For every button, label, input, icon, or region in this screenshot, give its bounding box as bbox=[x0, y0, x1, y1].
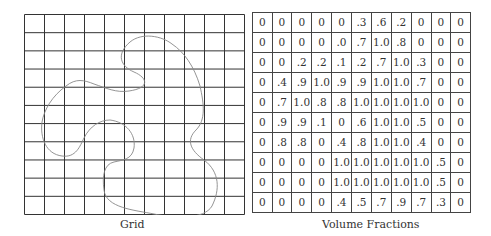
grid-svg bbox=[24, 14, 245, 215]
table-cell: 1.0 bbox=[332, 153, 352, 173]
table-cell: 0 bbox=[272, 13, 292, 33]
table-cell: 0 bbox=[253, 93, 273, 113]
table-cell: 1.0 bbox=[391, 113, 411, 133]
table-cell: .3 bbox=[351, 13, 371, 33]
table-cell: 0 bbox=[451, 93, 471, 113]
table-cell: .2 bbox=[312, 53, 332, 73]
table-cell: 0 bbox=[312, 133, 332, 153]
table-cell: 0 bbox=[253, 13, 273, 33]
table-row: 00.2.2.1.2.71.0.300 bbox=[253, 53, 471, 73]
grid-caption: Grid bbox=[120, 218, 145, 231]
table-cell: .7 bbox=[411, 193, 431, 213]
grid-lines bbox=[25, 15, 245, 215]
table-cell: 0 bbox=[253, 113, 273, 133]
table-cell: .9 bbox=[292, 73, 312, 93]
table-cell: .4 bbox=[411, 133, 431, 153]
table-cell: 1.0 bbox=[371, 93, 391, 113]
table-row: 0.4.91.0.9.91.01.0.700 bbox=[253, 73, 471, 93]
table-cell: 0 bbox=[312, 13, 332, 33]
table-row: 0.71.0.8.81.01.01.01.000 bbox=[253, 93, 471, 113]
table-cell: 0 bbox=[332, 13, 352, 33]
table-cell: 0 bbox=[253, 193, 273, 213]
table-cell: 1.0 bbox=[292, 93, 312, 113]
table-cell: 0 bbox=[451, 193, 471, 213]
table-cell: 1.0 bbox=[371, 113, 391, 133]
table-cell: .2 bbox=[292, 53, 312, 73]
table-cell: 1.0 bbox=[391, 153, 411, 173]
table-cell: 0 bbox=[253, 133, 273, 153]
table-cell: .5 bbox=[431, 153, 451, 173]
table-cell: .3 bbox=[431, 193, 451, 213]
table-row: 0.8.80.4.81.01.0.400 bbox=[253, 133, 471, 153]
table-row: 00000.3.6.2000 bbox=[253, 13, 471, 33]
table-cell: 0 bbox=[451, 73, 471, 93]
table-cell: .7 bbox=[411, 73, 431, 93]
table-cell: 1.0 bbox=[411, 173, 431, 193]
table-cell: 0 bbox=[431, 13, 451, 33]
table-cell: 0 bbox=[431, 133, 451, 153]
table-row: 0.9.9.10.61.01.0.500 bbox=[253, 113, 471, 133]
table-cell: .5 bbox=[351, 193, 371, 213]
table-cell: 0 bbox=[253, 153, 273, 173]
table-cell: 1.0 bbox=[391, 93, 411, 113]
table-cell: 0 bbox=[292, 33, 312, 53]
table-cell: 0 bbox=[431, 113, 451, 133]
table-cell: .9 bbox=[391, 193, 411, 213]
table-cell: .7 bbox=[272, 93, 292, 113]
table-cell: 0 bbox=[451, 53, 471, 73]
table-cell: .7 bbox=[371, 53, 391, 73]
table-cell: 0 bbox=[253, 33, 273, 53]
table-cell: .8 bbox=[351, 133, 371, 153]
volume-fractions-table: 00000.3.6.20000000.0.71.0.800000.2.2.1.2… bbox=[252, 12, 471, 213]
table-cell: 1.0 bbox=[351, 173, 371, 193]
table-cell: .4 bbox=[332, 133, 352, 153]
table-cell: .0 bbox=[332, 33, 352, 53]
table-cell: 1.0 bbox=[371, 153, 391, 173]
table-cell: .3 bbox=[411, 53, 431, 73]
table-cell: 1.0 bbox=[391, 53, 411, 73]
table-cell: .7 bbox=[371, 193, 391, 213]
table-cell: 0 bbox=[451, 13, 471, 33]
table-cell: 0 bbox=[272, 153, 292, 173]
table-cell: .8 bbox=[312, 93, 332, 113]
table-cell: .2 bbox=[391, 13, 411, 33]
interface-curve bbox=[42, 36, 218, 215]
table-cell: 1.0 bbox=[312, 73, 332, 93]
table-cell: 0 bbox=[451, 173, 471, 193]
table-cell: 0 bbox=[253, 173, 273, 193]
table-cell: .6 bbox=[371, 13, 391, 33]
table-cell: .9 bbox=[292, 113, 312, 133]
table-cell: 0 bbox=[451, 113, 471, 133]
table-cell: 0 bbox=[272, 173, 292, 193]
table-cell: .4 bbox=[272, 73, 292, 93]
table-cell: .9 bbox=[272, 113, 292, 133]
table-cell: .2 bbox=[351, 53, 371, 73]
table-cell: 0 bbox=[292, 173, 312, 193]
grid-diagram bbox=[24, 14, 244, 214]
table-cell: .8 bbox=[332, 93, 352, 113]
table-cell: 1.0 bbox=[351, 153, 371, 173]
table-cell: 0 bbox=[411, 13, 431, 33]
table-cell: 0 bbox=[411, 33, 431, 53]
table-cell: 1.0 bbox=[391, 133, 411, 153]
table-cell: 0 bbox=[312, 153, 332, 173]
table-cell: .8 bbox=[292, 133, 312, 153]
table-cell: 0 bbox=[272, 53, 292, 73]
table-cell: .8 bbox=[391, 33, 411, 53]
table-cell: 0 bbox=[431, 93, 451, 113]
table-cell: 1.0 bbox=[371, 73, 391, 93]
table-cell: 0 bbox=[292, 193, 312, 213]
table-cell: 0 bbox=[253, 53, 273, 73]
table-cell: 1.0 bbox=[411, 153, 431, 173]
table-cell: 0 bbox=[431, 33, 451, 53]
table-cell: 0 bbox=[272, 193, 292, 213]
table-cell: 1.0 bbox=[391, 73, 411, 93]
table-cell: 1.0 bbox=[371, 133, 391, 153]
volume-fractions-caption: Volume Fractions bbox=[322, 218, 420, 231]
table-row: 00001.01.01.01.01.0.50 bbox=[253, 153, 471, 173]
table-cell: .7 bbox=[351, 33, 371, 53]
table-cell: 1.0 bbox=[371, 33, 391, 53]
table-cell: 0 bbox=[292, 13, 312, 33]
table-cell: 0 bbox=[431, 73, 451, 93]
table-cell: 0 bbox=[312, 173, 332, 193]
